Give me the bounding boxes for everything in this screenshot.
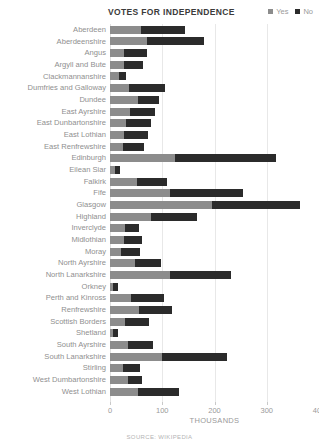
- bar-segment-yes[interactable]: [110, 189, 170, 197]
- bar-row[interactable]: South Ayrshire: [110, 339, 319, 351]
- bar-row[interactable]: Shetland: [110, 327, 319, 339]
- stacked-bar[interactable]: [110, 84, 165, 92]
- bar-row[interactable]: Renfrewshire: [110, 304, 319, 316]
- stacked-bar[interactable]: [110, 131, 148, 139]
- bar-row[interactable]: Eilean Siar: [110, 164, 319, 176]
- stacked-bar[interactable]: [110, 201, 300, 209]
- bar-row[interactable]: Angus: [110, 47, 319, 59]
- bar-segment-yes[interactable]: [110, 96, 138, 104]
- bar-row[interactable]: Perth and Kinross: [110, 292, 319, 304]
- bar-segment-yes[interactable]: [110, 178, 137, 186]
- stacked-bar[interactable]: [110, 143, 144, 151]
- stacked-bar[interactable]: [110, 306, 172, 314]
- bar-segment-yes[interactable]: [110, 224, 125, 232]
- bar-segment-yes[interactable]: [110, 72, 119, 80]
- bar-segment-no[interactable]: [175, 154, 276, 162]
- bar-segment-no[interactable]: [123, 143, 144, 151]
- bar-segment-no[interactable]: [124, 236, 142, 244]
- stacked-bar[interactable]: [110, 224, 139, 232]
- bar-segment-yes[interactable]: [110, 26, 141, 34]
- bar-row[interactable]: North Ayrshire: [110, 257, 319, 269]
- bar-row[interactable]: Inverclyde: [110, 222, 319, 234]
- bar-segment-yes[interactable]: [110, 341, 128, 349]
- bar-row[interactable]: Falkirk: [110, 176, 319, 188]
- bar-row[interactable]: Edinburgh: [110, 152, 319, 164]
- bar-segment-no[interactable]: [151, 213, 197, 221]
- bar-row[interactable]: East Ayrshire: [110, 106, 319, 118]
- bar-row[interactable]: Orkney: [110, 281, 319, 293]
- bar-segment-yes[interactable]: [110, 154, 175, 162]
- stacked-bar[interactable]: [110, 119, 151, 127]
- bar-segment-no[interactable]: [138, 388, 179, 396]
- stacked-bar[interactable]: [110, 96, 159, 104]
- bar-segment-yes[interactable]: [110, 143, 123, 151]
- bar-segment-no[interactable]: [170, 189, 243, 197]
- bar-segment-no[interactable]: [141, 26, 185, 34]
- bar-segment-yes[interactable]: [110, 37, 147, 45]
- bar-segment-yes[interactable]: [110, 294, 131, 302]
- bar-row[interactable]: North Lanarkshire: [110, 269, 319, 281]
- legend-item-yes[interactable]: Yes: [268, 7, 288, 16]
- bar-segment-yes[interactable]: [110, 213, 151, 221]
- bar-row[interactable]: South Lanarkshire: [110, 351, 319, 363]
- bar-segment-yes[interactable]: [110, 353, 162, 361]
- bar-segment-no[interactable]: [124, 131, 148, 139]
- bar-row[interactable]: Glasgow: [110, 199, 319, 211]
- bar-segment-yes[interactable]: [110, 248, 121, 256]
- bar-segment-yes[interactable]: [110, 259, 135, 267]
- stacked-bar[interactable]: [110, 189, 243, 197]
- bar-segment-yes[interactable]: [110, 131, 124, 139]
- bar-row[interactable]: Aberdeen: [110, 24, 319, 36]
- stacked-bar[interactable]: [110, 26, 185, 34]
- stacked-bar[interactable]: [110, 388, 179, 396]
- stacked-bar[interactable]: [110, 271, 231, 279]
- bar-segment-yes[interactable]: [110, 119, 126, 127]
- bar-segment-yes[interactable]: [110, 318, 125, 326]
- legend-item-no[interactable]: No: [295, 7, 313, 16]
- bar-segment-yes[interactable]: [110, 271, 170, 279]
- bar-row[interactable]: Aberdeenshire: [110, 36, 319, 48]
- stacked-bar[interactable]: [110, 166, 120, 174]
- bar-segment-yes[interactable]: [110, 61, 124, 69]
- bar-segment-no[interactable]: [170, 271, 231, 279]
- bar-row[interactable]: East Renfrewshire: [110, 141, 319, 153]
- stacked-bar[interactable]: [110, 154, 276, 162]
- bar-row[interactable]: East Lothian: [110, 129, 319, 141]
- stacked-bar[interactable]: [110, 353, 227, 361]
- bar-segment-no[interactable]: [125, 224, 140, 232]
- bar-segment-no[interactable]: [124, 49, 148, 57]
- bar-segment-no[interactable]: [121, 248, 140, 256]
- stacked-bar[interactable]: [110, 376, 142, 384]
- bar-segment-no[interactable]: [137, 178, 168, 186]
- bar-segment-no[interactable]: [113, 329, 118, 337]
- bar-segment-no[interactable]: [128, 341, 153, 349]
- bar-segment-yes[interactable]: [110, 376, 128, 384]
- bar-row[interactable]: Scottish Borders: [110, 316, 319, 328]
- stacked-bar[interactable]: [110, 49, 147, 57]
- bar-row[interactable]: West Lothian: [110, 386, 319, 398]
- bar-segment-no[interactable]: [113, 283, 118, 291]
- bar-segment-no[interactable]: [128, 376, 143, 384]
- bar-segment-no[interactable]: [115, 166, 120, 174]
- bar-segment-no[interactable]: [212, 201, 300, 209]
- stacked-bar[interactable]: [110, 283, 118, 291]
- stacked-bar[interactable]: [110, 341, 153, 349]
- bar-row[interactable]: Midlothian: [110, 234, 319, 246]
- bar-segment-no[interactable]: [119, 72, 126, 80]
- bar-segment-yes[interactable]: [110, 306, 139, 314]
- stacked-bar[interactable]: [110, 236, 142, 244]
- bar-segment-yes[interactable]: [110, 236, 124, 244]
- bar-segment-no[interactable]: [123, 364, 140, 372]
- bar-segment-yes[interactable]: [110, 49, 124, 57]
- bar-segment-no[interactable]: [125, 318, 149, 326]
- bar-segment-yes[interactable]: [110, 84, 129, 92]
- bar-segment-no[interactable]: [139, 306, 172, 314]
- bar-row[interactable]: Stirling: [110, 362, 319, 374]
- stacked-bar[interactable]: [110, 213, 197, 221]
- bar-segment-no[interactable]: [135, 259, 161, 267]
- bar-row[interactable]: Clackmannanshire: [110, 71, 319, 83]
- bar-row[interactable]: Fife: [110, 187, 319, 199]
- bar-segment-no[interactable]: [130, 108, 155, 116]
- stacked-bar[interactable]: [110, 318, 149, 326]
- bar-segment-no[interactable]: [124, 61, 143, 69]
